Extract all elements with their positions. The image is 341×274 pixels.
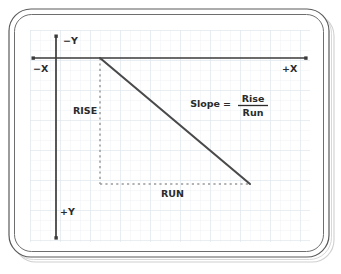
rise-label: RISE: [73, 105, 97, 116]
y-axis-bottom-endpoint: [54, 236, 57, 239]
slope-diagram: −Y −X +X +Y RISE RUN Slope = Rise Run: [0, 0, 341, 274]
axis-label-neg-y: −Y: [63, 35, 78, 46]
axis-label-neg-x: −X: [33, 63, 49, 74]
formula-numerator: Rise: [242, 93, 265, 104]
x-axis-left-endpoint: [32, 56, 35, 59]
axis-label-pos-y: +Y: [60, 206, 75, 217]
formula-denominator: Run: [243, 107, 264, 118]
y-axis-top-endpoint: [54, 35, 57, 38]
formula-lhs: Slope: [190, 98, 220, 109]
formula-equals: =: [223, 98, 231, 109]
figure-canvas: −Y −X +X +Y RISE RUN Slope = Rise Run: [0, 0, 341, 274]
run-label: RUN: [161, 188, 184, 199]
x-axis-right-endpoint: [304, 56, 307, 59]
axis-label-pos-x: +X: [282, 63, 298, 74]
